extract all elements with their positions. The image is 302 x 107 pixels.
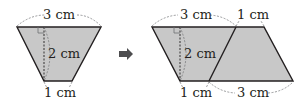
top-left-label: 3 cm: [180, 7, 212, 22]
top-label: 3 cm: [43, 7, 75, 22]
diagram-canvas: 3 cm 2 cm 1 cm 3 cm 1 cm 2 cm 1 cm 3 cm: [0, 0, 302, 107]
right-arrow-icon: [119, 48, 133, 60]
bottom-right-label: 3 cm: [237, 85, 269, 100]
trapezoid-figure: 3 cm 2 cm 1 cm: [17, 7, 101, 100]
diagram: 3 cm 2 cm 1 cm 3 cm 1 cm 2 cm 1 cm 3 cm: [0, 0, 302, 107]
bottom-label: 1 cm: [44, 85, 76, 100]
bottom-left-label: 1 cm: [180, 85, 212, 100]
top-right-label: 1 cm: [237, 7, 269, 22]
height-label: 2 cm: [48, 46, 80, 61]
height-label: 2 cm: [184, 46, 216, 61]
parallelogram-figure: 3 cm 1 cm 2 cm 1 cm 3 cm: [152, 7, 293, 100]
